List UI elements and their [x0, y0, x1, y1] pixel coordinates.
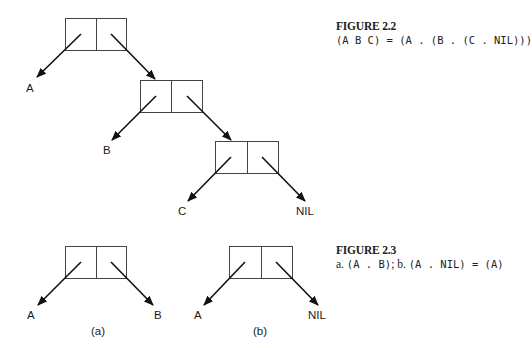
caption-segment: ; b. [391, 258, 409, 270]
cons-cell-b [230, 247, 293, 279]
cons-cell-2 [141, 81, 203, 113]
figure-2-2-expression: (A B C) = (A . (B . (C . NIL))) [336, 33, 532, 47]
figure-2-2-caption: FIGURE 2.2 (A B C) = (A . (B . (C . NIL)… [336, 19, 532, 47]
atom-label-a-fig-a: A [27, 309, 35, 321]
atom-label-a-fig-b: A [194, 309, 202, 321]
car-pointer-b-arrow-icon [204, 262, 245, 305]
atom-label-nil-top: NIL [296, 205, 315, 217]
caption-segment: (A . B) [347, 258, 391, 270]
car-pointer-1-arrow-icon [37, 34, 81, 77]
cdr-pointer-a-arrow-icon [111, 262, 153, 305]
caption-segment: a. [336, 258, 347, 270]
atom-label-nil-fig-b: NIL [308, 309, 327, 321]
atom-label-b-fig-a: B [154, 309, 162, 321]
car-pointer-3-arrow-icon [188, 157, 231, 201]
caption-segment: (A B C) = (A . (B . (C . NIL))) [336, 34, 532, 46]
cdr-pointer-1-arrow-icon [111, 34, 155, 79]
cons-cell-3 [216, 142, 279, 174]
atom-label-b-top: B [103, 144, 111, 156]
cdr-pointer-3-arrow-icon [262, 157, 305, 201]
subfigure-label-a: (a) [91, 325, 105, 337]
figure-2-3-description: a. (A . B); b. (A . NIL) = (A) [336, 257, 504, 271]
cons-cell-a [66, 247, 127, 279]
caption-segment: (A . NIL) = (A) [409, 258, 504, 270]
cons-cells-layer [66, 19, 293, 279]
atom-label-c-top: C [178, 205, 186, 217]
cdr-pointer-2-arrow-icon [187, 96, 231, 140]
car-pointer-2-arrow-icon [112, 96, 156, 140]
cdr-pointer-b-arrow-icon [276, 262, 318, 305]
figure-2-3-title: FIGURE 2.3 [336, 243, 504, 257]
subfigure-label-b: (b) [253, 325, 267, 337]
atom-labels-layer: ABCNILAB(a)ANIL(b) [26, 82, 327, 337]
cons-cell-1 [66, 19, 127, 51]
figure-2-2-title: FIGURE 2.2 [336, 19, 532, 33]
atom-label-a-top: A [26, 82, 34, 94]
car-pointer-a-arrow-icon [38, 262, 81, 305]
figure-2-3-caption: FIGURE 2.3 a. (A . B); b. (A . NIL) = (A… [336, 243, 504, 271]
